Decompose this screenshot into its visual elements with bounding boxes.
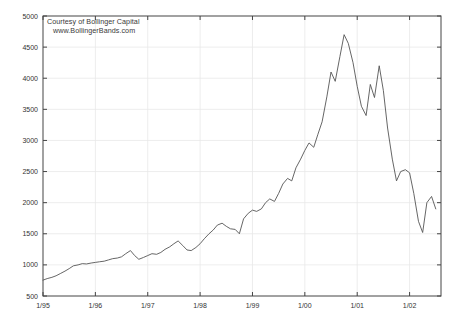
plot-background bbox=[43, 16, 441, 296]
x-axis-tick-labels: 1/951/961/971/981/991/001/011/02 bbox=[36, 302, 416, 309]
svg-text:1/95: 1/95 bbox=[36, 302, 50, 309]
svg-text:1/02: 1/02 bbox=[403, 302, 417, 309]
svg-text:2500: 2500 bbox=[22, 168, 38, 175]
stock-index-chart: 500100015002000250030003500400045005000 … bbox=[0, 0, 462, 324]
attribution-text: Courtesy of Bollinger Capital www.Bollin… bbox=[47, 17, 140, 36]
svg-text:1/98: 1/98 bbox=[193, 302, 207, 309]
svg-text:1500: 1500 bbox=[22, 230, 38, 237]
svg-text:1000: 1000 bbox=[22, 261, 38, 268]
svg-text:1/96: 1/96 bbox=[89, 302, 103, 309]
attribution-line-2: www.BollingerBands.com bbox=[47, 26, 140, 35]
svg-text:4000: 4000 bbox=[22, 75, 38, 82]
chart-canvas: 500100015002000250030003500400045005000 … bbox=[0, 0, 462, 324]
svg-text:500: 500 bbox=[26, 293, 38, 300]
y-axis-tick-labels: 500100015002000250030003500400045005000 bbox=[22, 13, 38, 300]
svg-text:4500: 4500 bbox=[22, 44, 38, 51]
svg-text:1/00: 1/00 bbox=[298, 302, 312, 309]
svg-text:1/01: 1/01 bbox=[350, 302, 364, 309]
svg-text:3000: 3000 bbox=[22, 137, 38, 144]
svg-text:1/97: 1/97 bbox=[141, 302, 155, 309]
svg-text:5000: 5000 bbox=[22, 13, 38, 20]
attribution-line-1: Courtesy of Bollinger Capital bbox=[47, 17, 140, 26]
svg-text:2000: 2000 bbox=[22, 199, 38, 206]
svg-text:1/99: 1/99 bbox=[246, 302, 260, 309]
svg-text:3500: 3500 bbox=[22, 106, 38, 113]
